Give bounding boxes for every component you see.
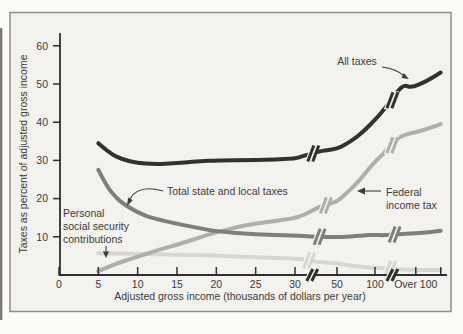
x-tick-label-100: 100 [366,278,384,290]
y-tick-label-30: 30 [36,154,48,166]
x-axis-title: Adjusted gross income (thousands of doll… [114,290,366,302]
personal-ss-label-line2: social security [63,220,130,232]
state-local-label: Total state and local taxes [167,185,288,197]
y-tick-label-60: 60 [36,40,48,52]
y-tick-label-20: 20 [36,192,48,204]
tax-chart: 10203040506005101520253050100Over 100 Ad… [0,0,463,334]
y-tick-label-40: 40 [36,116,48,128]
x-tick-label-50: 50 [331,278,343,290]
x-tick-label-20: 20 [210,278,222,290]
x-tick-label-15: 15 [171,278,183,290]
y-axis-title: Taxes as percent of adjusted gross incom… [17,54,29,253]
federal-label-line2: income tax [386,199,438,211]
federal-label-line1: Federal [386,186,422,198]
y-tick-label-50: 50 [36,78,48,90]
personal-ss-label-line3: contributions [63,233,123,245]
x-tick-label-Over 100: Over 100 [394,278,437,290]
all-taxes-label: All taxes [337,55,377,67]
x-tick-label-10: 10 [132,278,144,290]
personal-ss-label-line1: Personal [63,207,104,219]
x-tick-label-25: 25 [250,278,262,290]
textbook-figure: 10203040506005101520253050100Over 100 Ad… [0,0,463,334]
x-tick-label-5: 5 [95,278,101,290]
x-tick-label-0: 0 [56,278,62,290]
x-tick-label-30: 30 [289,278,301,290]
y-tick-label-10: 10 [36,231,48,243]
